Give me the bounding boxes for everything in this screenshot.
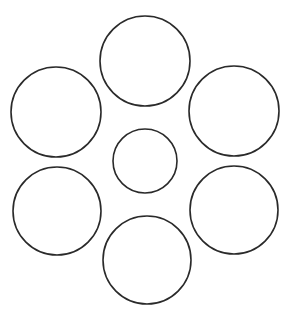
diagram-canvas: [0, 0, 296, 324]
circle-arrangement-diagram: [0, 0, 296, 324]
circle-center: [113, 129, 177, 193]
circle-upper-right: [189, 66, 279, 156]
circle-top: [100, 16, 190, 106]
circle-lower-right: [190, 166, 278, 254]
circle-upper-left: [11, 67, 101, 157]
circle-bottom: [103, 216, 191, 304]
circle-lower-left: [13, 167, 101, 255]
